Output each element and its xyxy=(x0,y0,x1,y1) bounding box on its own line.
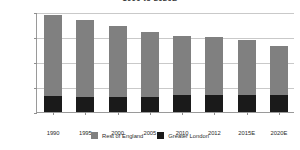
x-axis-tick xyxy=(150,112,151,115)
y-axis-tick xyxy=(34,113,37,114)
bar-stack[interactable] xyxy=(109,26,127,112)
bar-segment-greater-london[interactable] xyxy=(44,96,62,112)
bar-segment-greater-london[interactable] xyxy=(109,97,127,112)
bar-segment-rest-of-england[interactable] xyxy=(44,15,62,97)
bar-group[interactable] xyxy=(141,12,159,112)
bar-group[interactable] xyxy=(238,12,256,112)
x-axis-tick xyxy=(214,112,215,115)
legend-label: Rest of England xyxy=(102,133,143,139)
x-axis-tick xyxy=(247,112,248,115)
bar-group[interactable] xyxy=(44,12,62,112)
x-axis-tick xyxy=(53,112,54,115)
bar-segment-greater-london[interactable] xyxy=(205,95,223,113)
legend-entry[interactable]: Greater London xyxy=(157,132,209,139)
legend-entry[interactable]: Rest of England xyxy=(91,132,143,139)
x-axis-tick xyxy=(85,112,86,115)
y-axis-tick xyxy=(34,88,37,89)
bar-group[interactable] xyxy=(205,12,223,112)
bar-group[interactable] xyxy=(270,12,288,112)
x-axis-tick xyxy=(279,112,280,115)
bar-segment-rest-of-england[interactable] xyxy=(109,26,127,96)
bar-segment-greater-london[interactable] xyxy=(141,97,159,112)
legend-label: Greater London xyxy=(168,133,209,139)
bar-stack[interactable] xyxy=(76,20,94,112)
bar-segment-rest-of-england[interactable] xyxy=(270,46,288,96)
stacked-bar-chart: 1990 to 2020E 01,000,0002,000,0003,000,0… xyxy=(0,0,300,150)
legend-swatch-greater-london xyxy=(157,132,164,139)
bar-stack[interactable] xyxy=(205,37,223,112)
bar-stack[interactable] xyxy=(270,46,288,112)
bar-segment-rest-of-england[interactable] xyxy=(173,36,191,96)
bar-stack[interactable] xyxy=(173,36,191,112)
bar-group[interactable] xyxy=(173,12,191,112)
bar-stack[interactable] xyxy=(238,40,256,112)
plot-area: 01,000,0002,000,0003,000,0004,000,000199… xyxy=(36,13,294,113)
x-axis-tick xyxy=(182,112,183,115)
bar-stack[interactable] xyxy=(141,32,159,113)
bar-segment-rest-of-england[interactable] xyxy=(238,40,256,95)
bar-segment-greater-london[interactable] xyxy=(270,95,288,112)
bar-segment-greater-london[interactable] xyxy=(76,97,94,113)
bar-segment-greater-london[interactable] xyxy=(238,95,256,112)
bar-segment-rest-of-england[interactable] xyxy=(141,32,159,97)
y-axis-tick xyxy=(34,63,37,64)
bar-segment-greater-london[interactable] xyxy=(173,95,191,112)
y-axis-tick xyxy=(34,38,37,39)
y-axis-tick xyxy=(34,13,37,14)
bar-segment-rest-of-england[interactable] xyxy=(205,37,223,95)
bar-group[interactable] xyxy=(109,12,127,112)
legend-swatch-rest-of-england xyxy=(91,132,98,139)
bar-segment-rest-of-england[interactable] xyxy=(76,20,94,96)
chart-title: 1990 to 2020E xyxy=(0,0,300,3)
x-axis-tick xyxy=(118,112,119,115)
bar-group[interactable] xyxy=(76,12,94,112)
bar-stack[interactable] xyxy=(44,15,62,113)
chart-legend: Rest of EnglandGreater London xyxy=(0,132,300,139)
